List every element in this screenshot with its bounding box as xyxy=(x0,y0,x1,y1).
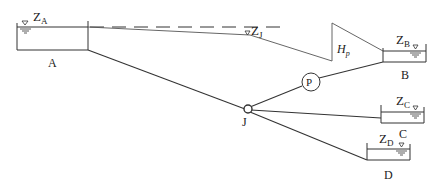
reservoir-label-a: A xyxy=(48,56,57,70)
pipe-j-d xyxy=(250,112,367,160)
pipe-j-c xyxy=(251,110,381,118)
pipe-a-j xyxy=(88,50,245,109)
head-label-c: ZC xyxy=(396,93,410,110)
pipes xyxy=(88,50,383,160)
head-label-b: ZB xyxy=(396,32,410,49)
head-label-d: ZD xyxy=(379,131,394,148)
reservoir-a xyxy=(17,21,88,50)
head-label-a: ZA xyxy=(33,9,48,26)
reservoir-label-b: B xyxy=(401,68,409,82)
reservoir-label-c: C xyxy=(399,127,407,141)
reservoir-label-d: D xyxy=(384,168,393,182)
junction-node xyxy=(244,105,252,113)
junction-label: J xyxy=(242,115,247,129)
pump-head-label: Hp xyxy=(336,42,350,58)
head-label-j: ZJ xyxy=(251,23,263,40)
diagram-canvas: ZA A ZJ Hp P ZB B ZC C ZD D J xyxy=(0,0,442,187)
pipe-p-b xyxy=(319,62,383,78)
pipe-j-p xyxy=(250,86,302,107)
pump-label: P xyxy=(306,76,312,88)
